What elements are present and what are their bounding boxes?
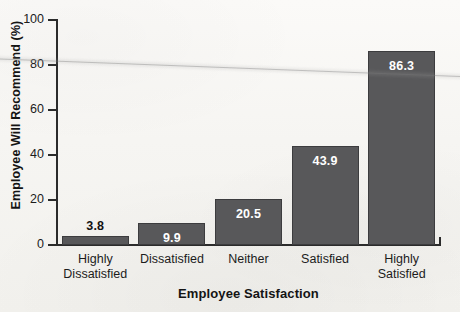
- y-axis-tick: [48, 199, 57, 201]
- bar-value-label: 86.3: [369, 59, 434, 73]
- bar: 3.8: [62, 236, 129, 245]
- x-axis-category-label: HighlySatisfied: [363, 252, 440, 282]
- y-axis-tick-label: 80: [10, 57, 44, 71]
- y-axis-tick: [48, 109, 57, 111]
- x-axis-category-label: Dissatisfied: [134, 252, 211, 267]
- y-axis-tick: [48, 154, 57, 156]
- x-axis-title: Employee Satisfaction: [56, 286, 441, 301]
- bar: 20.5: [215, 199, 282, 245]
- bar-value-label: 20.5: [216, 207, 281, 221]
- chart-screenshot: Employee Will Recommend (%) 020406080100…: [0, 0, 460, 312]
- x-axis-category-label: Satisfied: [287, 252, 364, 267]
- x-axis-category-label: Neither: [210, 252, 287, 267]
- bar-value-label: 9.9: [139, 231, 204, 245]
- bar-value-label: 3.8: [63, 219, 128, 233]
- y-axis-tick-label: 100: [10, 12, 44, 26]
- y-axis-tick: [48, 64, 57, 66]
- y-axis-tick: [48, 19, 57, 21]
- bar: 43.9: [292, 146, 359, 245]
- y-axis-tick: [48, 244, 57, 246]
- bar-value-label: 43.9: [293, 154, 358, 168]
- y-axis-tick-label: 0: [10, 237, 44, 251]
- plot-area: 3.89.920.543.986.3: [57, 20, 440, 245]
- bar: 86.3: [368, 51, 435, 245]
- y-axis-tick-label: 40: [10, 147, 44, 161]
- y-axis-tick-label: 60: [10, 102, 44, 116]
- x-axis-category-label: HighlyDissatisfied: [57, 252, 134, 282]
- bar: 9.9: [138, 223, 205, 245]
- y-axis-tick-label: 20: [10, 192, 44, 206]
